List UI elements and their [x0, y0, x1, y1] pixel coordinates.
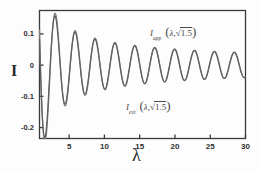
- y-tick-label: -0.2: [12, 123, 34, 132]
- y-tick-label: 0.1: [12, 29, 34, 38]
- legend-label-app: Iapp (λ,√1.5): [150, 22, 196, 41]
- y-tick-label: -0.1: [12, 92, 34, 101]
- y-tick-label: 0: [12, 61, 34, 70]
- x-tick-label: 5: [61, 142, 77, 151]
- legend-app-close-paren: ): [192, 24, 196, 39]
- x-tick-label: 10: [96, 142, 112, 151]
- legend-ext-close-paren: ): [166, 98, 170, 113]
- x-tick-label: 25: [202, 142, 218, 151]
- chart-canvas: [0, 0, 258, 171]
- legend-ext-subscript: ext: [129, 109, 135, 115]
- x-tick-label: 20: [167, 142, 183, 151]
- x-tick-label: 30: [238, 142, 254, 151]
- legend-app-radicand: 1.5: [180, 27, 192, 38]
- legend-app-subscript: app: [153, 35, 161, 41]
- legend-ext-radicand: 1.5: [154, 101, 166, 112]
- legend-label-ext: Iext (λ,√1.5): [126, 96, 170, 115]
- x-tick-label: 15: [132, 142, 148, 151]
- figure-background: [0, 0, 258, 171]
- figure-container: I λ 0.10-0.1-0.2 51015202530 Iapp (λ,√1.…: [0, 0, 258, 171]
